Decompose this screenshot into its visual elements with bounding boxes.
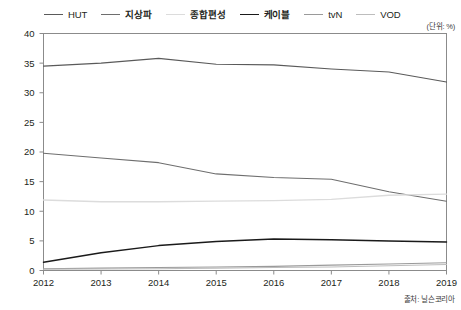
svg-text:20: 20 [24, 146, 35, 157]
svg-text:35: 35 [24, 58, 35, 69]
svg-text:40: 40 [24, 28, 35, 39]
source-note: 출처: 닐슨코리아 [404, 293, 455, 304]
svg-text:0: 0 [29, 265, 34, 276]
svg-text:15: 15 [24, 176, 35, 187]
chart-container: HUT 지상파 종합편성 케이블 tvN VOD (단위: %) 0510152… [0, 0, 461, 310]
svg-text:2014: 2014 [148, 277, 169, 288]
svg-text:5: 5 [29, 235, 34, 246]
y-axis-ticks [40, 34, 44, 271]
series-lines [44, 58, 447, 269]
svg-text:2013: 2013 [91, 277, 112, 288]
series-line-HUT [44, 58, 447, 82]
x-axis-labels: 20122013201420152016201720182019 [33, 277, 457, 288]
svg-text:2019: 2019 [436, 277, 457, 288]
svg-text:2012: 2012 [33, 277, 54, 288]
line-chart-plot: 0510152025303540 20122013201420152016201… [0, 0, 461, 310]
y-axis-labels: 0510152025303540 [24, 28, 35, 276]
svg-text:30: 30 [24, 87, 35, 98]
svg-text:2017: 2017 [321, 277, 342, 288]
plot-frame [44, 34, 447, 271]
svg-text:2016: 2016 [263, 277, 284, 288]
svg-text:2015: 2015 [206, 277, 227, 288]
series-line-종합편성 [44, 194, 447, 202]
svg-text:25: 25 [24, 117, 35, 128]
x-axis-ticks [44, 271, 447, 275]
svg-text:10: 10 [24, 206, 35, 217]
series-line-지상파 [44, 153, 447, 201]
svg-text:2018: 2018 [378, 277, 399, 288]
series-line-케이블 [44, 239, 447, 262]
